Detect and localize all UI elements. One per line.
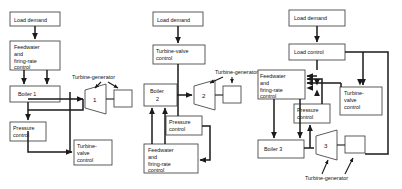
p2-pressure-line1: Pressure bbox=[169, 119, 191, 125]
p3-boiler-label: Boiler 3 bbox=[264, 146, 282, 152]
p2-boiler-line1: Boiler bbox=[150, 88, 164, 94]
diagram-svg: Load demand Feedwater and firing-rate co… bbox=[0, 0, 402, 189]
p1-pressure-line2: control bbox=[13, 132, 29, 138]
p3-tvc-line2: valve bbox=[344, 97, 357, 103]
p2-tg-arrow-turbine bbox=[210, 77, 223, 83]
p2-turbine-generator-label: Turbine-generator bbox=[215, 69, 258, 75]
diagram-canvas: Load demand Feedwater and firing-rate co… bbox=[0, 0, 402, 189]
p1-load-demand-label: Load demand bbox=[14, 17, 47, 23]
p1-generator-box bbox=[114, 90, 132, 107]
p1-feedwater-line1: Feedwater bbox=[14, 44, 40, 50]
p1-feedwater-line2: and bbox=[14, 51, 23, 57]
p2-tvc-line1: Turbine-valve bbox=[156, 48, 188, 54]
p1-turbine-generator-label: Turbine-generator bbox=[72, 74, 115, 80]
p1-boiler-label: Boiler 1 bbox=[18, 91, 36, 97]
p2-turbine-number: 2 bbox=[202, 92, 206, 99]
p2-tvc-line2: control bbox=[156, 55, 172, 61]
p2-feedwater-line2: and bbox=[148, 154, 157, 160]
p3-load-control-label: Load control bbox=[294, 49, 324, 55]
p2-feedwater-line1: Feedwater bbox=[148, 147, 174, 153]
p3-tvc-line3: control bbox=[344, 104, 360, 110]
p1-feedwater-line4: control bbox=[14, 64, 30, 70]
p2-load-demand-label: Load demand bbox=[157, 17, 190, 23]
p3-tvc-line1: Turbine- bbox=[344, 90, 364, 96]
p3-feedwater-line4: control bbox=[260, 93, 276, 99]
p3-tg-arrow-turbine bbox=[322, 160, 328, 174]
p3-feedwater-line1: Feedwater bbox=[260, 73, 286, 79]
p3-conn-pressure-to-turbine bbox=[330, 114, 336, 130]
p3-load-demand-label: Load demand bbox=[294, 15, 327, 21]
p1-tvc-line2: valve bbox=[77, 150, 90, 156]
p1-tvc-line1: Turbine- bbox=[77, 143, 97, 149]
p2-feedwater-line4: control bbox=[148, 167, 164, 173]
p2-pressure-line2: control bbox=[169, 126, 185, 132]
p1-tg-arrow-generator bbox=[108, 82, 118, 88]
p2-generator-box bbox=[223, 86, 241, 103]
p1-turbine-number: 1 bbox=[93, 96, 97, 103]
p3-turbine-generator-label: Turbine-generator bbox=[305, 175, 348, 181]
p1-pressure-line1: Pressure bbox=[13, 125, 35, 131]
p2-boiler-line2: 2 bbox=[156, 96, 159, 102]
p3-generator-box bbox=[345, 136, 365, 153]
p3-feedwater-line2: and bbox=[260, 80, 269, 86]
p3-turbine-number: 3 bbox=[324, 142, 328, 149]
p3-conn-pressure-to-feedwater bbox=[307, 88, 322, 104]
p1-tvc-line3: control bbox=[77, 157, 93, 163]
p3-tg-arrow-generator bbox=[345, 158, 353, 174]
